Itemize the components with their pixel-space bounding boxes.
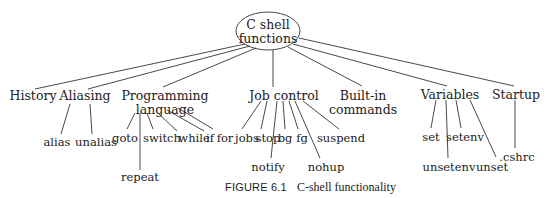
- programming-label-line2: language: [121, 104, 208, 117]
- programming-label-line1: Programming: [121, 90, 208, 103]
- leaf-switch: switch: [143, 133, 181, 145]
- leaf-suspend: suspend: [317, 133, 365, 145]
- figure-title: C-shell functionality: [297, 180, 396, 194]
- leaf-cshrc: .cshrc: [499, 152, 534, 164]
- c-shell-diagram: C shell functions History Aliasing Progr…: [0, 0, 560, 198]
- node-startup: Startup: [492, 89, 540, 102]
- figure-caption: FIGURE 6.1C-shell functionality: [225, 180, 396, 195]
- figure-number: FIGURE 6.1: [225, 181, 287, 193]
- leaf-alias: alias: [44, 137, 71, 149]
- node-aliasing: Aliasing: [60, 90, 111, 103]
- node-programming-language: Programming language: [121, 90, 208, 116]
- root-label-line1: C shell: [239, 18, 298, 32]
- node-built-in-commands: Built-in commands: [329, 90, 397, 116]
- leaf-nohup: nohup: [308, 162, 345, 174]
- leaf-bg: bg: [278, 133, 293, 145]
- node-variables: Variables: [421, 89, 480, 102]
- root-label-line2: functions: [239, 32, 298, 46]
- leaf-for: for: [217, 133, 234, 145]
- root-node: C shell functions: [239, 18, 298, 46]
- leaf-goto: goto: [112, 133, 138, 145]
- leaf-unalias: unalias: [75, 137, 117, 149]
- node-history: History: [10, 90, 57, 103]
- leaf-repeat: repeat: [121, 172, 159, 184]
- builtin-label-line2: commands: [329, 104, 397, 117]
- leaf-unsetenv: unsetenv: [423, 162, 476, 174]
- node-job-control: Job control: [249, 90, 319, 103]
- leaf-setenv: setenv: [446, 132, 484, 144]
- leaf-while: while: [178, 133, 209, 145]
- leaf-set: set: [422, 132, 439, 144]
- leaf-notify: notify: [251, 162, 284, 174]
- leaf-fg: fg: [296, 133, 308, 145]
- leaf-if: if: [206, 133, 214, 145]
- builtin-label-line1: Built-in: [329, 90, 397, 103]
